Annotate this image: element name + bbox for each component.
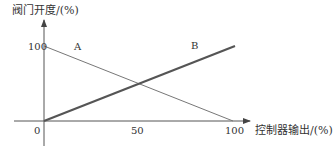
- chart-canvas: 阀门开度/(%) 控制器输出/(%) 100 0 50 100 A B: [0, 0, 335, 152]
- y-axis-label: 阀门开度/(%): [12, 3, 79, 17]
- y-tick-100: 100: [28, 41, 47, 52]
- x-tick-50: 50: [131, 125, 144, 136]
- x-axis-label: 控制器输出/(%): [255, 123, 333, 137]
- series-a-label: A: [73, 41, 82, 52]
- x-tick-100: 100: [225, 125, 244, 136]
- series-b-label: B: [191, 40, 198, 51]
- x-tick-0: 0: [34, 125, 40, 136]
